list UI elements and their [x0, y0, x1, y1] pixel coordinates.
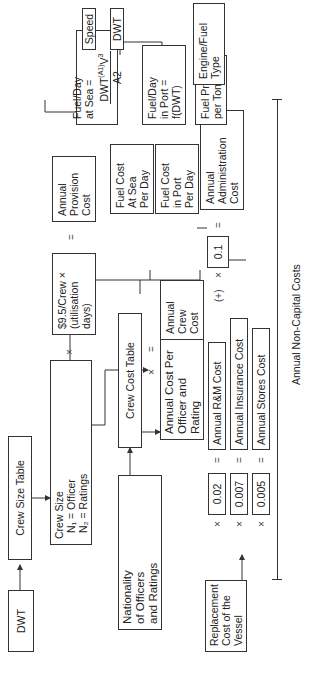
fuel-cost-sea-line-2: At Sea	[126, 150, 138, 208]
crew-size-table-box: Crew Size Table	[8, 436, 32, 560]
fuel-cost-port-line-3: Per Day	[183, 150, 195, 208]
fuel-day-sea-numerator: DWT(A1)V3	[95, 51, 111, 103]
admin-line-2: Administration	[216, 116, 228, 204]
bracket-tick-right	[272, 99, 282, 100]
replacement-line-2: Cost of the	[220, 586, 232, 646]
bracket-tick-left	[272, 579, 282, 580]
replacement-line-3: Vessel	[232, 586, 244, 646]
dwt-top-label: DWT	[111, 17, 123, 41]
engine-line-1: Engine/Fuel	[197, 9, 209, 79]
annual-stores-cost-label: Annual Stores Cost	[255, 333, 267, 445]
crew-size-box: Crew Size N₁ = Officer N₂ = Ratings	[50, 360, 92, 545]
nationality-line-2: of Officers	[134, 481, 147, 624]
nationality-line-1: Nationality	[121, 481, 134, 624]
factor-rm-box: 0.02	[208, 473, 226, 515]
crew-size-n2: N₂ = Ratings	[77, 366, 89, 539]
crew-size-n1: N₁ = Officer	[65, 366, 77, 539]
plus-operator: (+)	[213, 290, 224, 303]
dwt-label: DWT	[15, 609, 27, 633]
factor-stores-value: 0.005	[255, 481, 267, 507]
times-operator-crew: ×	[146, 369, 157, 375]
times-operator-admin: ×	[213, 272, 224, 278]
provision-formula-box: $9.5/Crew × (utilisation days)	[52, 253, 96, 335]
crew-size-table-label: Crew Size Table	[14, 460, 26, 536]
fuel-cost-sea-box: Fuel Cost At Sea Per Day	[110, 144, 154, 214]
annual-provision-cost-box: Annual Provision Cost	[52, 156, 96, 222]
times-operator-stores: ×	[256, 521, 267, 527]
equals-operator-crew: =	[146, 346, 157, 352]
fuel-day-sea-denominator: A2	[111, 71, 123, 84]
provision-formula-line-3: days)	[80, 259, 92, 329]
engine-line-2: Type	[209, 9, 221, 79]
annual-rm-cost-label: Annual R&M Cost	[211, 347, 223, 445]
factor-stores-box: 0.005	[252, 473, 270, 515]
speed-input-box: Speed	[82, 8, 96, 50]
numerator-exp: (A1)	[97, 64, 104, 77]
times-operator-provision: ×	[64, 349, 75, 355]
numerator-v-exp: 3	[97, 53, 104, 57]
replacement-line-1: Replacement	[208, 586, 220, 646]
annual-insurance-cost-box: Annual Insurance Cost	[230, 318, 248, 450]
numerator-v: V	[98, 57, 110, 64]
speed-label: Speed	[83, 14, 95, 44]
fuel-cost-port-line-1: Fuel Cost	[159, 150, 171, 208]
nationality-line-3: and Ratings	[147, 481, 160, 624]
provision-line-3: Cost	[80, 162, 92, 216]
crew-cost-line-3: Cost	[188, 286, 200, 334]
equals-operator-provision: =	[66, 234, 77, 240]
bracket-label: Annual Non-Capital Costs	[290, 264, 302, 385]
provision-line-2: Provision	[68, 162, 80, 216]
provision-line-1: Annual	[56, 162, 68, 216]
numerator-dwt: DWT	[98, 78, 110, 102]
fuel-cost-sea-line-3: Per Day	[138, 150, 150, 208]
crew-cost-line-1: Annual	[164, 286, 176, 334]
admin-line-1: Annual	[204, 116, 216, 204]
fuel-cost-port-line-2: in Port	[171, 150, 183, 208]
non-capital-bracket	[277, 100, 278, 580]
fuel-cost-port-box: Fuel Cost in Port Per Day	[155, 144, 199, 214]
replacement-cost-box: Replacement Cost of the Vessel	[205, 580, 247, 652]
provision-formula-line-1: $9.5/Crew ×	[56, 259, 68, 329]
admin-factor-value: 0.1	[212, 245, 224, 260]
admin-factor-box: 0.1	[207, 236, 229, 268]
provision-formula-line-2: (utilisation	[68, 259, 80, 329]
annual-crew-cost-box: Annual Crew Cost	[160, 280, 204, 340]
times-operator-rm: ×	[212, 521, 223, 527]
times-operator-insurance: ×	[234, 521, 245, 527]
engine-fuel-type-box: Engine/Fuel Type	[193, 3, 225, 85]
equals-operator-insurance: =	[234, 457, 245, 463]
dwt-top-input-box: DWT	[110, 8, 124, 50]
crew-cost-line-2: Crew	[176, 286, 188, 334]
annual-rm-cost-box: Annual R&M Cost	[208, 342, 226, 450]
factor-insurance-value: 0.007	[233, 481, 245, 507]
fuel-day-port-line-3: f(DWT)	[170, 51, 182, 119]
crew-size-title: Crew Size	[53, 366, 65, 539]
factor-insurance-box: 0.007	[230, 473, 248, 515]
fuel-day-port-line-2: in Port =	[158, 51, 170, 119]
annual-stores-cost-box: Annual Stores Cost	[252, 328, 270, 450]
crew-cost-table-box: Crew Cost Table	[118, 313, 142, 448]
fuel-cost-sea-line-1: Fuel Cost	[114, 150, 126, 208]
dwt-input-box: DWT	[8, 590, 34, 652]
admin-line-3: Cost	[228, 116, 240, 204]
fuel-day-port-line-1: Fuel/Day	[146, 51, 158, 119]
diagram-canvas: DWT Crew Size Table Crew Size N₁ = Offic…	[0, 0, 328, 690]
nationality-box: Nationality of Officers and Ratings	[118, 475, 162, 630]
equals-operator-stores: =	[256, 457, 267, 463]
annual-administration-cost-box: Annual Administration Cost	[200, 110, 244, 210]
equals-operator-rm: =	[212, 457, 223, 463]
factor-rm-value: 0.02	[211, 484, 223, 504]
annual-insurance-cost-label: Annual Insurance Cost	[233, 323, 245, 445]
fuel-day-port-box: Fuel/Day in Port = f(DWT)	[142, 45, 186, 125]
crew-cost-table-label: Crew Cost Table	[124, 342, 136, 419]
equals-operator-admin: =	[213, 222, 224, 228]
